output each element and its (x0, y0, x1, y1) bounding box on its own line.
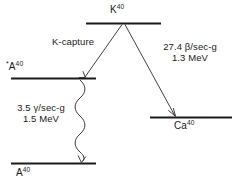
gamma-rate-text: 3.5 γ/sec-g (8, 102, 74, 113)
transition-k-capture-arrow (85, 25, 122, 78)
level-label-a40-excited-symbol: A (9, 61, 16, 72)
gamma-energy-text: 1.5 MeV (8, 113, 74, 124)
level-label-ca40-mass: 40 (187, 119, 195, 126)
k-capture-arrowhead-icon (79, 72, 85, 78)
level-label-ca40: Ca40 (174, 120, 195, 132)
level-label-a40-excited-mass: 40 (16, 60, 24, 67)
transition-label-beta: 27.4 β/sec-g 1.3 MeV (158, 41, 222, 63)
level-label-ca40-symbol: Ca (174, 120, 187, 131)
level-label-k40-symbol: K (110, 4, 117, 15)
level-label-k40-mass: 40 (117, 3, 125, 10)
decay-scheme-diagram: K40 *A40 A40 Ca40 K-capture 27.4 β/sec-g… (0, 0, 241, 188)
decay-scheme-canvas (0, 0, 241, 188)
transition-gamma-wave (75, 80, 85, 161)
level-label-a40-excited: *A40 (6, 61, 23, 73)
gamma-arrowhead-icon (78, 156, 85, 163)
level-label-a40-ground-mass: 40 (23, 166, 31, 173)
transition-label-gamma: 3.5 γ/sec-g 1.5 MeV (8, 102, 74, 124)
transition-beta-arrow (125, 25, 175, 117)
level-label-a40-ground-symbol: A (16, 167, 23, 178)
transition-label-k-capture: K-capture (52, 36, 94, 47)
level-label-a40-ground: A40 (16, 167, 30, 179)
beta-rate-text: 27.4 β/sec-g (158, 41, 222, 52)
beta-energy-text: 1.3 MeV (158, 52, 222, 63)
beta-arrowhead-icon (169, 108, 176, 116)
level-label-k40: K40 (110, 4, 124, 16)
